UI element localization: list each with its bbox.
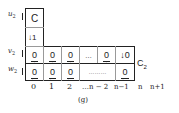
v-cell-2: 0→ (62, 47, 79, 63)
axis-label-0: 0 (31, 82, 36, 91)
v-cell-0: 0→ (26, 47, 43, 63)
v-cell-n-1: 0→ (98, 47, 115, 63)
grid-line (25, 80, 135, 81)
row-label-u2: u2 (8, 10, 16, 19)
cell-arrow-1: ↓1 (26, 28, 43, 46)
w-cell-1: 0← (44, 64, 61, 80)
grid-line (134, 46, 135, 81)
v-cell-n: ↓0 (116, 47, 134, 63)
row-label-v2: v2 (8, 47, 15, 56)
v-cell-1: 0→ (44, 47, 61, 63)
axis-label-n-2: …n − 2 (82, 83, 108, 91)
side-label-c2: C2 (137, 58, 147, 70)
row-label-bar (22, 13, 23, 20)
w-cell-0: 0← (26, 64, 43, 80)
v-cell-ellipsis: … (80, 47, 97, 63)
axis-label-n+1: n+1 (150, 83, 165, 91)
row-label-w2: w2 (8, 65, 17, 74)
axis-label-2: 2 (67, 82, 72, 91)
w-cell-2: 0← (62, 64, 79, 80)
axis-label-n: n (138, 83, 143, 91)
axis-label-n-1: n−1 (114, 83, 129, 91)
cell-c: C (26, 9, 43, 27)
row-label-bar (22, 50, 23, 57)
row-label-bar (22, 68, 23, 75)
figure-caption: (g) (78, 96, 88, 104)
w-cell-n: 0← (116, 64, 134, 80)
w-cell-ellipsis: ……… (80, 64, 115, 80)
axis-label-1: 1 (49, 82, 54, 91)
